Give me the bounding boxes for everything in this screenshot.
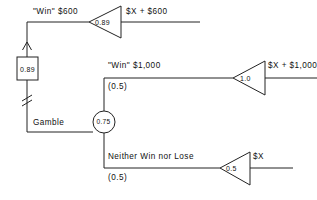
- bottom-output-label: $X: [253, 152, 264, 161]
- middle-branch-label: "Win" $1,000: [108, 61, 161, 70]
- middle-branch-probability: (0.5): [108, 82, 127, 91]
- gamble-label: Gamble: [33, 118, 64, 127]
- top-output-label: $X + $600: [126, 7, 168, 16]
- gain-triangle-top-value: 0.89: [95, 19, 110, 26]
- diagram-canvas: 0.89 0.89 0.75 1.0: [0, 0, 317, 200]
- top-branch-label: "Win" $600: [33, 7, 78, 16]
- junction-circle-value: 0.75: [97, 118, 111, 125]
- gain-triangle-middle-value: 1.0: [240, 75, 251, 82]
- middle-output-label: $X + $1,000: [268, 61, 317, 70]
- diagram-svg: 0.89 0.89 0.75 1.0: [0, 0, 317, 200]
- bottom-branch-label: Neither Win nor Lose: [108, 152, 194, 161]
- bottom-branch-probability: (0.5): [108, 173, 127, 182]
- feedback-gain-box-value: 0.89: [20, 66, 35, 73]
- gain-triangle-bottom-value: 0.5: [226, 165, 237, 172]
